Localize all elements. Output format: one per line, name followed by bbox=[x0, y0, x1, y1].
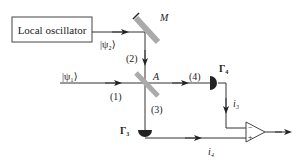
path3-label: (3) bbox=[151, 104, 163, 116]
homodyne-diagram: Local oscillator M A |ψ₂⟩ |ψ₁⟩ (2) (1) (… bbox=[0, 0, 300, 165]
current4-label: i₄ bbox=[208, 146, 215, 157]
amp-minus: − bbox=[248, 123, 253, 132]
mirror-label: M bbox=[159, 12, 169, 23]
differential-amplifier: − + bbox=[246, 122, 265, 142]
path1-label: (1) bbox=[110, 91, 122, 103]
detector4-label: Γ₄ bbox=[219, 63, 228, 74]
detector3-label: Γ₃ bbox=[120, 125, 129, 136]
current3-label: i₃ bbox=[233, 98, 240, 109]
splitter-label: A bbox=[152, 71, 160, 82]
beam-paths bbox=[60, 32, 288, 138]
psi2-label: |ψ₂⟩ bbox=[100, 39, 116, 50]
local-oscillator-label: Local oscillator bbox=[18, 24, 87, 36]
detector-gamma3 bbox=[138, 130, 152, 137]
wire-i3 bbox=[218, 83, 246, 128]
path2-label: (2) bbox=[126, 53, 138, 65]
psi1-label: |ψ₁⟩ bbox=[62, 71, 78, 82]
local-oscillator-box: Local oscillator bbox=[12, 17, 92, 42]
path4-label: (4) bbox=[189, 71, 201, 83]
detector-gamma4 bbox=[210, 76, 217, 90]
amp-plus: + bbox=[248, 133, 253, 142]
